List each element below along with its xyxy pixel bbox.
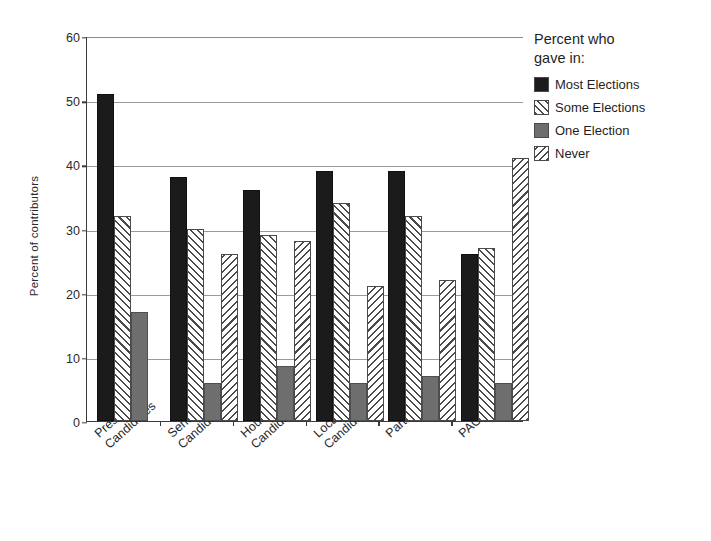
legend-label: One Election (555, 123, 629, 138)
legend-item: Never (534, 146, 706, 161)
legend-item: Some Elections (534, 100, 706, 115)
legend-label: Most Elections (555, 77, 640, 92)
legend-swatch-most (534, 77, 549, 92)
plot-area: 0102030405060 (86, 37, 523, 422)
legend-swatch-one (534, 123, 549, 138)
legend-title-line-1: Percent who (534, 30, 706, 49)
legend-swatch-never (534, 146, 549, 161)
bar-group (451, 38, 524, 421)
legend-label: Never (555, 146, 590, 161)
bar-never (221, 254, 238, 421)
legend-title: Percent who gave in: (534, 30, 706, 68)
y-axis-title: Percent of contributors (28, 116, 40, 356)
bar-never (512, 158, 529, 421)
legend-items: Most ElectionsSome ElectionsOne Election… (534, 77, 706, 161)
legend-item: Most Elections (534, 77, 706, 92)
x-axis-tick-mark (160, 421, 161, 426)
bar-most (388, 171, 405, 421)
bar-group (306, 38, 379, 421)
x-axis-tick-mark (233, 421, 234, 426)
y-axis-tick-mark (82, 422, 87, 423)
bar-most (316, 171, 333, 421)
bar-one (277, 366, 294, 421)
bar-most (461, 254, 478, 421)
bar-one (131, 312, 148, 421)
bar-some (114, 216, 131, 421)
bar-one (204, 383, 221, 422)
bar-some (333, 203, 350, 421)
bar-some (187, 229, 204, 422)
bar-group (233, 38, 306, 421)
bar-some (478, 248, 495, 421)
bar-group (160, 38, 233, 421)
bar-most (243, 190, 260, 421)
x-axis-tick-mark (306, 421, 307, 426)
legend-item: One Election (534, 123, 706, 138)
bar-most (97, 94, 114, 421)
bar-group (87, 38, 160, 421)
bar-one (422, 376, 439, 421)
legend-swatch-some (534, 100, 549, 115)
legend-title-line-2: gave in: (534, 49, 706, 68)
bar-never (439, 280, 456, 421)
bar-some (405, 216, 422, 421)
legend-label: Some Elections (555, 100, 645, 115)
bar-never (367, 286, 384, 421)
bar-one (350, 383, 367, 422)
x-axis-tick-mark (378, 421, 379, 426)
bar-group (378, 38, 451, 421)
bar-chart: Percent of contributors 0102030405060 Pe… (0, 0, 711, 541)
x-axis-tick-mark (451, 421, 452, 426)
bar-one (495, 383, 512, 422)
bar-never (294, 241, 311, 421)
bar-some (260, 235, 277, 421)
chart-legend: Percent who gave in: Most ElectionsSome … (534, 30, 706, 169)
bar-most (170, 177, 187, 421)
